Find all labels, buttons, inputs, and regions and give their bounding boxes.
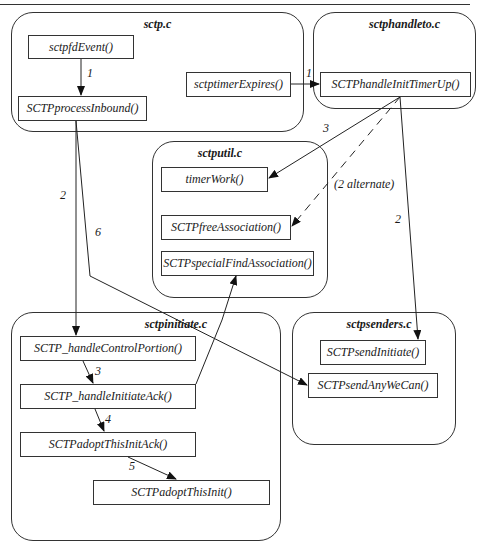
edge-label: 1 (306, 66, 312, 81)
edge-initack-specialfind (196, 276, 236, 384)
edge-label: 6 (95, 225, 101, 240)
edge-handleinit-sendinitiate (400, 97, 418, 339)
edge-handleinit-timerwork (269, 97, 400, 178)
edge-label: 1 (87, 66, 93, 81)
edge-adoptack-adoptinit (128, 457, 176, 479)
edge-label: 3 (95, 364, 101, 379)
edge-handleinit-free (292, 97, 400, 226)
edge-control-initack (83, 361, 93, 383)
edge-label: 2 (395, 212, 401, 227)
edge-initack-adoptack (95, 409, 104, 431)
edge-process-sendanywecan (76, 121, 307, 385)
edge-label: 4 (105, 412, 111, 427)
edge-label: 5 (129, 459, 135, 474)
edges-layer (0, 0, 484, 553)
edge-label: (2 alternate) (334, 177, 394, 192)
edge-label: 3 (323, 121, 329, 136)
edge-label: 2 (60, 188, 66, 203)
